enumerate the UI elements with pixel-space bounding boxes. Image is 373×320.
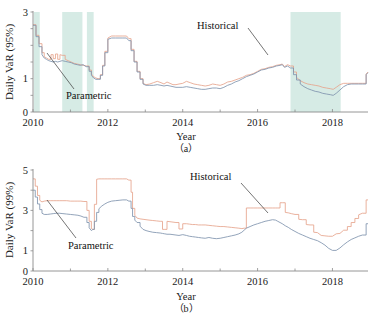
parametric-leader-line-b bbox=[47, 200, 76, 238]
x-tick-label: 2016 bbox=[247, 117, 268, 128]
x-tick-label: 2016 bbox=[247, 276, 268, 287]
y-tick-label: 3 bbox=[23, 7, 28, 18]
x-axis-title-a: Year bbox=[176, 131, 196, 142]
shaded-band-0 bbox=[34, 12, 40, 112]
x-tick-label: 2014 bbox=[172, 117, 194, 128]
annotation-historical-b: Historical bbox=[190, 171, 231, 182]
y-tick-label: 1 bbox=[23, 245, 28, 256]
x-tick-label: 2014 bbox=[172, 276, 194, 287]
x-tick-label: 2018 bbox=[322, 276, 343, 287]
x-tick-label: 2018 bbox=[322, 117, 343, 128]
shaded-band-3 bbox=[291, 12, 341, 112]
y-tick-label: 1 bbox=[23, 73, 28, 84]
figure-container: 01320102012201420162018 Daily VaR (95%) … bbox=[0, 0, 373, 320]
y-axis-title-a: Daily VaR (95%) bbox=[3, 24, 16, 101]
y-axis-title-b: Daily VaR (99%) bbox=[3, 182, 16, 259]
y-tick-label: 5 bbox=[23, 165, 28, 176]
y-tick-label: 0 bbox=[23, 266, 28, 277]
x-tick-label: 2012 bbox=[97, 276, 118, 287]
annotation-parametric-a: Parametric bbox=[66, 90, 112, 101]
x-axis-title-b: Year bbox=[176, 291, 196, 302]
x-tick-label: 2010 bbox=[23, 276, 44, 287]
x-tick-label: 2010 bbox=[23, 117, 44, 128]
series-line-historical bbox=[33, 179, 368, 236]
annotation-parametric-b: Parametric bbox=[68, 240, 114, 251]
historical-leader-line-b bbox=[241, 183, 268, 213]
panel-a-svg: 01320102012201420162018 Daily VaR (95%) … bbox=[0, 0, 373, 160]
annotation-historical-a: Historical bbox=[197, 20, 238, 31]
x-tick-label: 2012 bbox=[97, 117, 118, 128]
y-tick-label: 0 bbox=[23, 107, 28, 118]
panel-caption-a: （a） bbox=[174, 143, 198, 154]
panel-b-svg: 013520102012201420162018 Daily VaR (99%)… bbox=[0, 160, 373, 320]
axes-group-b bbox=[31, 169, 369, 271]
chart-panel-a: 01320102012201420162018 Daily VaR (95%) … bbox=[0, 0, 373, 160]
y-tick-label: 3 bbox=[23, 205, 28, 216]
historical-leader-line-a bbox=[248, 28, 268, 55]
panel-caption-b: （b） bbox=[174, 303, 199, 314]
chart-panel-b: 013520102012201420162018 Daily VaR (99%)… bbox=[0, 160, 373, 320]
